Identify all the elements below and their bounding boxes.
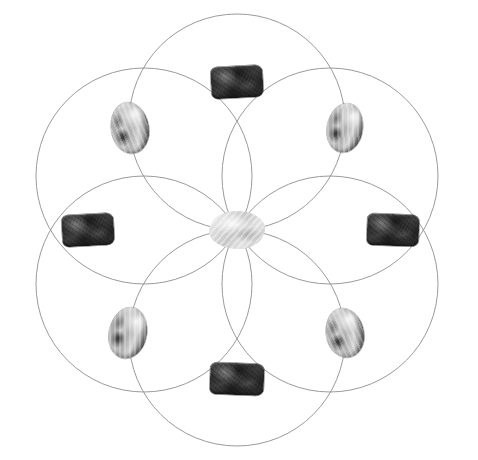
stone-center bbox=[209, 211, 265, 249]
stone-top bbox=[210, 65, 264, 100]
stone-right bbox=[366, 213, 419, 247]
crystal-grid-figure: Seed of Life Crystal Grid bbox=[0, 0, 478, 460]
circle-top bbox=[129, 14, 345, 230]
stone-left bbox=[61, 213, 115, 248]
circle-bottom bbox=[129, 230, 345, 446]
stone-bottom bbox=[209, 362, 264, 396]
